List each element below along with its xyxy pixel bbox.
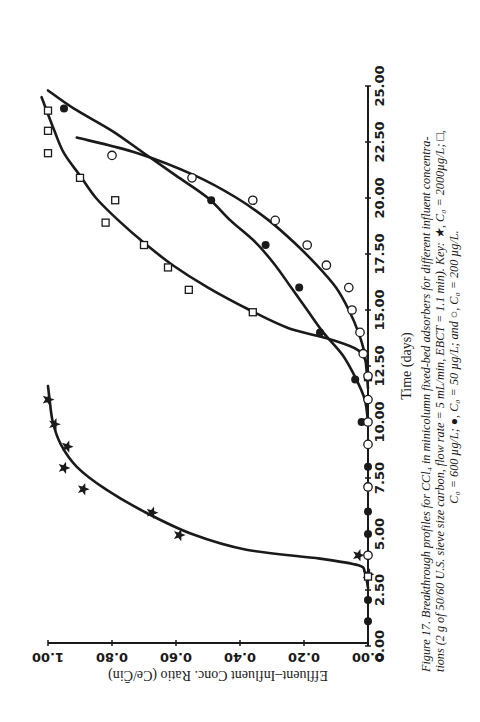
square-marker — [249, 309, 256, 316]
curve-filled-circle — [48, 90, 368, 422]
filled-circle-marker — [316, 328, 324, 336]
ratio-tick-label: 0.60 — [160, 650, 192, 665]
open-circle-marker — [356, 328, 364, 336]
open-circle-marker — [345, 283, 353, 291]
filled-circle-marker — [295, 284, 303, 292]
open-circle-marker — [348, 306, 356, 314]
filled-circle-marker — [262, 241, 270, 249]
fitted-curves — [42, 90, 368, 587]
open-circle-marker — [303, 241, 311, 249]
filled-circle-marker — [60, 104, 68, 112]
square-marker — [102, 219, 109, 226]
square-marker — [185, 286, 192, 293]
time-tick-label: 20.00 — [372, 177, 387, 218]
filled-circle-marker — [207, 196, 215, 204]
chart-axes — [48, 86, 371, 646]
square-marker — [77, 174, 84, 181]
open-circle-marker — [364, 372, 372, 380]
ratio-tick-label: 0.80 — [96, 650, 128, 665]
open-circle-marker — [359, 349, 367, 357]
time-tick-label: 10.00 — [372, 401, 387, 442]
square-marker — [45, 127, 52, 134]
open-circle-marker — [188, 174, 196, 182]
open-circle-marker — [271, 216, 279, 224]
time-tick-label: 5.00 — [372, 518, 387, 550]
square-marker — [141, 242, 148, 249]
square-marker — [365, 573, 372, 580]
time-tick-label: 2.50 — [372, 574, 387, 606]
filled-circle-marker — [364, 617, 372, 625]
filled-circle-marker — [364, 530, 372, 538]
time-tick-label: 17.50 — [372, 233, 387, 274]
figure-caption: Figure 17. Breakthrough profiles for CCl… — [419, 130, 461, 673]
ratio-axis-title: Effluent–Influent Conc. Ratio (Ce/C̄in) — [108, 667, 328, 683]
caption-line: tions (2 g of 50/60 U.S. sieve size carb… — [433, 130, 447, 672]
open-circle-marker — [108, 151, 116, 159]
time-tick-label: 12.50 — [372, 345, 387, 386]
square-marker — [45, 107, 52, 114]
star-marker — [353, 549, 365, 561]
square-marker — [112, 197, 119, 204]
time-tick-label: 7.50 — [372, 462, 387, 494]
filled-circle-marker — [351, 375, 359, 383]
square-marker — [165, 264, 172, 271]
star-marker — [43, 393, 55, 405]
caption-line: Figure 17. Breakthrough profiles for CCl… — [419, 137, 433, 673]
open-circle-marker — [364, 440, 372, 448]
square-marker — [45, 150, 52, 157]
filled-circle-marker — [364, 596, 372, 604]
curve-star — [48, 386, 368, 588]
open-circle-marker — [364, 551, 372, 559]
breakthrough-chart: 0.002.505.007.5010.0012.5015.0017.5020.0… — [0, 0, 480, 722]
ratio-tick-label: 0.20 — [288, 650, 320, 665]
time-tick-label: 15.00 — [372, 289, 387, 330]
open-circle-marker — [364, 395, 372, 403]
time-tick-label: 25.00 — [372, 65, 387, 106]
star-marker — [49, 418, 61, 430]
ratio-tick-label: 1.00 — [32, 650, 64, 665]
filled-circle-marker — [364, 508, 372, 516]
open-circle-marker — [322, 261, 330, 269]
ratio-tick-label: 0.40 — [224, 650, 256, 665]
open-circle-marker — [364, 483, 372, 491]
open-circle-marker — [364, 418, 372, 426]
open-circle-marker — [249, 196, 257, 204]
caption-line: C₀ = 600 µg/L; ●, C₀ = 50 µg/L; and ○, C… — [447, 230, 461, 503]
star-marker — [78, 483, 90, 495]
star-marker — [59, 462, 71, 474]
time-tick-label: 22.50 — [372, 121, 387, 162]
filled-circle-marker — [364, 463, 372, 471]
axis-labels: 0.002.505.007.5010.0012.5015.0017.5020.0… — [32, 65, 415, 683]
time-axis-title: Time (days) — [399, 332, 415, 400]
ratio-tick-label: 0.00 — [352, 650, 384, 665]
